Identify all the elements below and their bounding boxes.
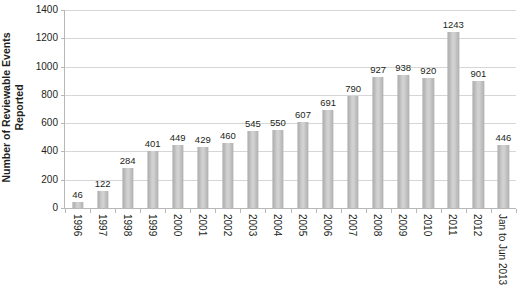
bar-slot: 449 xyxy=(165,10,190,208)
bar-slot: 284 xyxy=(115,10,140,208)
x-axis-category-label: 2000 xyxy=(172,214,182,236)
bar-value-label: 446 xyxy=(496,133,512,143)
bar-slot: 460 xyxy=(215,10,240,208)
bar[interactable] xyxy=(322,110,333,208)
x-axis-label-slot: 2000 xyxy=(164,212,189,304)
bar[interactable] xyxy=(247,131,258,208)
y-axis-tick-label: 800 xyxy=(41,90,58,100)
x-axis-label-slot: 1999 xyxy=(139,212,164,304)
x-axis-label-slot: 2007 xyxy=(340,212,365,304)
x-axis-category-label: 2012 xyxy=(472,214,482,236)
bar[interactable] xyxy=(172,145,183,209)
bar[interactable] xyxy=(297,122,308,208)
x-axis-category-label: 2007 xyxy=(347,214,357,236)
x-axis-category-label: 2005 xyxy=(297,214,307,236)
bar-value-label: 460 xyxy=(220,131,236,141)
y-axis-tick-label: 0 xyxy=(52,203,58,213)
bar-slot: 429 xyxy=(190,10,215,208)
bar[interactable] xyxy=(398,75,409,208)
y-axis-title: Number of Reviewable Events Reported xyxy=(0,0,26,215)
bar[interactable] xyxy=(197,147,208,208)
x-axis-label-slot: 2012 xyxy=(465,212,490,304)
bar[interactable] xyxy=(122,168,133,208)
bar-slot: 446 xyxy=(491,10,516,208)
bar[interactable] xyxy=(222,143,233,208)
x-axis-category-label: 2002 xyxy=(222,214,232,236)
x-axis-label-slot: 1997 xyxy=(89,212,114,304)
bar[interactable] xyxy=(448,32,459,208)
x-axis-category-label: 2009 xyxy=(397,214,407,236)
bar-value-label: 691 xyxy=(320,98,336,108)
bar-value-label: 401 xyxy=(145,139,161,149)
bar-value-label: 545 xyxy=(245,119,261,129)
bar-slot: 938 xyxy=(391,10,416,208)
x-axis-category-label: 2010 xyxy=(422,214,432,236)
x-axis-label-slot: 2009 xyxy=(390,212,415,304)
bar-value-label: 901 xyxy=(470,69,486,79)
x-axis-tick-mark xyxy=(516,209,517,213)
x-axis-category-label: 2004 xyxy=(272,214,282,236)
x-axis-category-label: 2011 xyxy=(447,214,457,236)
bar[interactable] xyxy=(473,81,484,208)
bar-value-label: 920 xyxy=(420,66,436,76)
bar-slot: 545 xyxy=(240,10,265,208)
bar-slot: 1243 xyxy=(441,10,466,208)
bar-chart: Number of Reviewable Events Reported 020… xyxy=(0,0,529,304)
bar-value-label: 550 xyxy=(270,118,286,128)
x-axis-label-slot: Jan to Jun 2013 xyxy=(490,212,515,304)
x-axis-category-label: 1996 xyxy=(72,214,82,236)
bar-value-label: 284 xyxy=(120,156,136,166)
bar[interactable] xyxy=(498,145,509,208)
bar[interactable] xyxy=(373,77,384,208)
x-axis-category-labels: 1996199719981999200020012002200320042005… xyxy=(64,212,515,304)
bar[interactable] xyxy=(72,202,83,209)
y-axis-tick-label: 600 xyxy=(41,118,58,128)
bar-value-label: 927 xyxy=(370,65,386,75)
bar[interactable] xyxy=(347,96,358,208)
x-axis-label-slot: 2005 xyxy=(290,212,315,304)
x-axis-label-slot: 2003 xyxy=(239,212,264,304)
bars-layer: 4612228440144942946054555060769179092793… xyxy=(65,10,516,208)
bar-value-label: 429 xyxy=(195,135,211,145)
bar-slot: 46 xyxy=(65,10,90,208)
x-axis-category-label: 2008 xyxy=(372,214,382,236)
y-axis-tick-labels: 0200400600800100012001400 xyxy=(26,0,62,215)
bar-value-label: 1243 xyxy=(443,20,464,30)
bar-value-label: 449 xyxy=(170,133,186,143)
bar-slot: 401 xyxy=(140,10,165,208)
x-axis-category-label: 1999 xyxy=(147,214,157,236)
x-axis-label-slot: 2002 xyxy=(214,212,239,304)
y-axis-title-line-2: Reported xyxy=(13,33,26,183)
x-axis-category-label: 2003 xyxy=(247,214,257,236)
bar-value-label: 46 xyxy=(72,190,83,200)
y-axis-tick-label: 1200 xyxy=(36,33,58,43)
x-axis-label-slot: 2006 xyxy=(315,212,340,304)
bar-slot: 901 xyxy=(466,10,491,208)
bar-slot: 550 xyxy=(265,10,290,208)
x-axis-label-slot: 1998 xyxy=(114,212,139,304)
bar-slot: 607 xyxy=(291,10,316,208)
bar[interactable] xyxy=(423,78,434,208)
bar-value-label: 607 xyxy=(295,110,311,120)
bar-value-label: 790 xyxy=(345,84,361,94)
bar-slot: 122 xyxy=(90,10,115,208)
x-axis-category-label: 1997 xyxy=(97,214,107,236)
x-axis-label-slot: 2001 xyxy=(189,212,214,304)
bar-slot: 691 xyxy=(316,10,341,208)
bar-value-label: 938 xyxy=(395,63,411,73)
y-axis-tick-label: 400 xyxy=(41,146,58,156)
x-axis-category-label: 1998 xyxy=(122,214,132,236)
bar[interactable] xyxy=(147,151,158,208)
bar-value-label: 122 xyxy=(95,179,111,189)
x-axis-category-label: 2006 xyxy=(322,214,332,236)
x-axis-label-slot: 2011 xyxy=(440,212,465,304)
bar[interactable] xyxy=(97,191,108,208)
x-axis-category-label: Jan to Jun 2013 xyxy=(497,214,507,285)
x-axis-label-slot: 2008 xyxy=(365,212,390,304)
y-axis-tick-label: 1000 xyxy=(36,62,58,72)
y-axis-tick-label: 1400 xyxy=(36,5,58,15)
bar[interactable] xyxy=(272,130,283,208)
x-axis-category-label: 2001 xyxy=(197,214,207,236)
bar-slot: 920 xyxy=(416,10,441,208)
bar-slot: 927 xyxy=(366,10,391,208)
